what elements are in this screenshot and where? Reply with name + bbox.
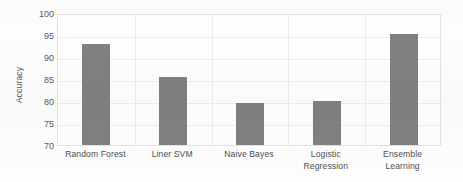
bars-layer — [58, 15, 440, 145]
accuracy-bar-chart: Accuracy 100959085807570 Random ForestLi… — [0, 0, 463, 182]
bar[interactable] — [390, 34, 418, 145]
x-axis-category-labels: Random ForestLiner SVMNaive BayesLogisti… — [57, 149, 441, 182]
bar-slot — [58, 15, 135, 145]
y-tick-label: 75 — [28, 120, 54, 129]
x-category-label-line: Ensemble — [383, 149, 422, 159]
x-category-label-line: Logistic — [311, 149, 341, 159]
bar[interactable] — [159, 77, 187, 145]
plot-area — [57, 14, 441, 146]
y-tick-label: 85 — [28, 76, 54, 85]
y-axis-tick-labels: 100959085807570 — [28, 0, 54, 182]
y-tick-label: 100 — [28, 10, 54, 19]
bar-slot — [135, 15, 212, 145]
bar[interactable] — [313, 101, 341, 145]
y-tick-label: 70 — [28, 142, 54, 151]
bar-slot — [288, 15, 365, 145]
y-axis-title: Accuracy — [14, 50, 24, 120]
y-tick-label: 95 — [28, 32, 54, 41]
x-category-label-line: Liner SVM — [152, 149, 193, 159]
x-category-label: Naive Bayes — [211, 149, 288, 161]
bar[interactable] — [82, 44, 110, 145]
bar-slot — [212, 15, 289, 145]
x-category-label-line: Naive Bayes — [224, 149, 273, 159]
x-category-label: Liner SVM — [134, 149, 211, 161]
x-category-label-line: Learning — [364, 161, 441, 173]
x-category-label-line: Regression — [287, 161, 364, 173]
x-category-label: Random Forest — [57, 149, 134, 161]
x-category-label: LogisticRegression — [287, 149, 364, 172]
y-tick-label: 80 — [28, 98, 54, 107]
x-category-label: EnsembleLearning — [364, 149, 441, 172]
bar-slot — [365, 15, 442, 145]
x-category-label-line: Random Forest — [65, 149, 126, 159]
bar[interactable] — [236, 103, 264, 145]
y-tick-label: 90 — [28, 54, 54, 63]
